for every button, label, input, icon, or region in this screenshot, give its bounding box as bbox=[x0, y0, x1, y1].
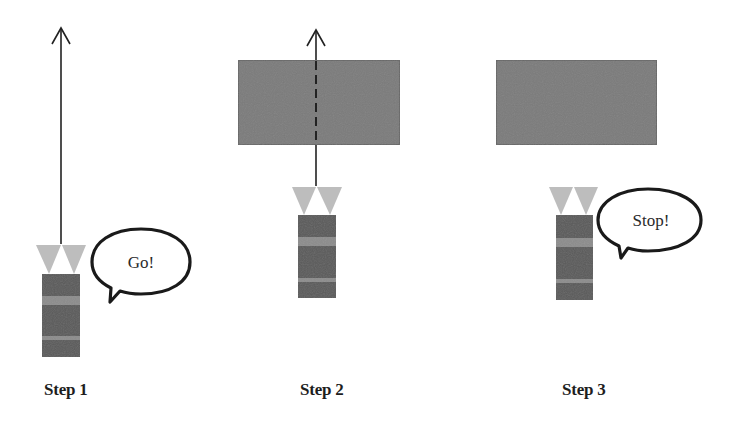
step-1-group: Go! bbox=[36, 28, 190, 357]
bubble-text: Go! bbox=[128, 253, 154, 272]
robot-icon bbox=[556, 215, 593, 300]
step-2-group bbox=[238, 30, 400, 298]
sensor-icon bbox=[549, 187, 598, 215]
speech-bubble-go: Go! bbox=[92, 229, 190, 302]
robot-icon bbox=[298, 215, 336, 298]
diagram-canvas: Go! bbox=[0, 0, 746, 423]
speech-bubble-stop: Stop! bbox=[598, 189, 701, 258]
diagram-svg: Go! bbox=[0, 0, 746, 423]
step-2-label: Step 2 bbox=[300, 380, 344, 400]
robot-icon bbox=[42, 274, 80, 357]
sensor-icon bbox=[292, 187, 342, 215]
step-1-label: Step 1 bbox=[44, 380, 88, 400]
sensor-icon bbox=[36, 245, 86, 274]
obstacle-block bbox=[238, 60, 400, 145]
step-3-label: Step 3 bbox=[562, 380, 606, 400]
bubble-text: Stop! bbox=[633, 211, 670, 230]
obstacle-block bbox=[496, 60, 657, 145]
path-arrow bbox=[52, 28, 70, 244]
step-3-group: Stop! bbox=[496, 60, 701, 300]
